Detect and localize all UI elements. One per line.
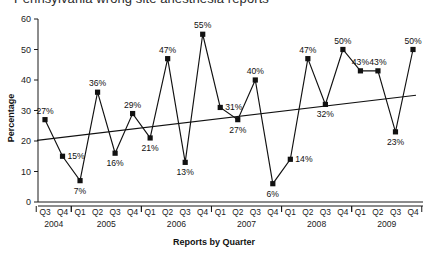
data-point-marker xyxy=(270,181,275,186)
x-quarter-label: Q3 xyxy=(39,207,51,217)
data-point-marker xyxy=(358,68,363,73)
x-axis: Q3Q4Q1Q2Q3Q4Q1Q2Q3Q4Q1Q2Q3Q4Q1Q2Q3Q4Q1Q2… xyxy=(36,202,423,247)
data-point-label: 50% xyxy=(404,36,422,46)
data-point-marker xyxy=(340,47,345,52)
data-point-marker xyxy=(288,157,293,162)
data-point-label: 6% xyxy=(267,189,280,199)
data-point-label: 14% xyxy=(295,154,313,164)
y-tick-label: 0 xyxy=(26,197,31,207)
data-point-marker xyxy=(42,117,47,122)
y-tick-labels: 0102030405060 xyxy=(21,14,31,207)
data-point-label: 23% xyxy=(387,137,405,147)
data-point-marker xyxy=(253,77,258,82)
data-point-label: 31% xyxy=(225,102,243,112)
x-year-label: 2005 xyxy=(97,219,116,229)
y-tick-label: 60 xyxy=(21,14,31,24)
x-quarter-label: Q1 xyxy=(285,207,297,217)
x-axis-title: Reports by Quarter xyxy=(173,237,256,247)
data-point-marker xyxy=(375,68,380,73)
x-quarter-label: Q4 xyxy=(337,207,349,217)
data-point-label: 43% xyxy=(352,57,370,67)
x-quarter-label: Q2 xyxy=(372,207,384,217)
x-quarter-label: Q2 xyxy=(162,207,174,217)
x-quarter-label: Q2 xyxy=(302,207,314,217)
x-quarter-label: Q3 xyxy=(320,207,332,217)
data-point-marker xyxy=(323,102,328,107)
data-point-marker xyxy=(60,154,65,159)
x-quarter-label: Q1 xyxy=(145,207,157,217)
data-point-marker xyxy=(393,129,398,134)
data-point-label: 27% xyxy=(229,125,247,135)
data-point-marker xyxy=(235,117,240,122)
x-quarter-label: Q3 xyxy=(250,207,262,217)
y-axis: 0102030405060 Percentage xyxy=(6,14,38,207)
data-point-label: 36% xyxy=(89,78,107,88)
x-year-label: 2008 xyxy=(307,219,326,229)
x-year-label: 2006 xyxy=(167,219,186,229)
x-quarter-label: Q1 xyxy=(215,207,227,217)
x-quarter-label: Q2 xyxy=(232,207,244,217)
y-tick-label: 40 xyxy=(21,75,31,85)
data-point-marker xyxy=(95,90,100,95)
data-point-label: 13% xyxy=(177,167,195,177)
data-point-label: 50% xyxy=(334,36,352,46)
x-year-label: 2007 xyxy=(237,219,256,229)
x-quarter-label: Q1 xyxy=(355,207,367,217)
data-point-label: 16% xyxy=(106,158,124,168)
x-year-label: 2004 xyxy=(44,219,63,229)
y-axis-title: Percentage xyxy=(6,94,16,143)
y-tick-label: 50 xyxy=(21,45,31,55)
data-point-label: 21% xyxy=(142,143,160,153)
data-point-marker xyxy=(165,56,170,61)
data-point-marker xyxy=(183,160,188,165)
data-point-label: 43% xyxy=(369,57,387,67)
x-quarter-label: Q3 xyxy=(180,207,192,217)
x-year-labels: 200420052006200720082009 xyxy=(44,219,396,229)
data-point-label: 47% xyxy=(159,45,177,55)
chart-container: Pennsylvania wrong site anesthesia repor… xyxy=(0,0,429,253)
data-point-marker xyxy=(305,56,310,61)
x-quarter-label: Q4 xyxy=(407,207,419,217)
data-point-marker xyxy=(410,47,415,52)
x-year-label: 2009 xyxy=(377,219,396,229)
x-quarter-label: Q3 xyxy=(110,207,122,217)
x-quarter-label: Q1 xyxy=(74,207,86,217)
y-tick-label: 20 xyxy=(21,136,31,146)
data-series: 27%15%7%36%16%29%21%47%13%55%31%27%40%6%… xyxy=(36,20,422,198)
y-tick-label: 10 xyxy=(21,167,31,177)
data-point-marker xyxy=(77,178,82,183)
x-quarter-label: Q4 xyxy=(57,207,69,217)
x-quarter-label: Q2 xyxy=(92,207,104,217)
data-point-label: 47% xyxy=(299,45,317,55)
data-point-marker xyxy=(113,151,118,156)
data-point-label: 15% xyxy=(68,151,86,161)
data-point-marker xyxy=(148,135,153,140)
data-point-label: 32% xyxy=(317,109,335,119)
y-tick-label: 30 xyxy=(21,106,31,116)
data-point-label: 29% xyxy=(124,100,142,110)
x-quarter-label: Q4 xyxy=(267,207,279,217)
data-point-label: 7% xyxy=(74,186,87,196)
data-point-marker xyxy=(130,111,135,116)
x-quarter-label: Q3 xyxy=(390,207,402,217)
data-point-label: 55% xyxy=(194,20,212,30)
data-point-label: 27% xyxy=(36,106,54,116)
x-quarter-label: Q4 xyxy=(197,207,209,217)
line-chart-plot: 0102030405060 Percentage Q3Q4Q1Q2Q3Q4Q1Q… xyxy=(0,0,429,253)
data-point-label: 40% xyxy=(247,66,265,76)
x-quarter-labels: Q3Q4Q1Q2Q3Q4Q1Q2Q3Q4Q1Q2Q3Q4Q1Q2Q3Q4Q1Q2… xyxy=(39,207,419,217)
data-point-marker xyxy=(200,32,205,37)
x-quarter-label: Q4 xyxy=(127,207,139,217)
data-point-marker xyxy=(218,105,223,110)
